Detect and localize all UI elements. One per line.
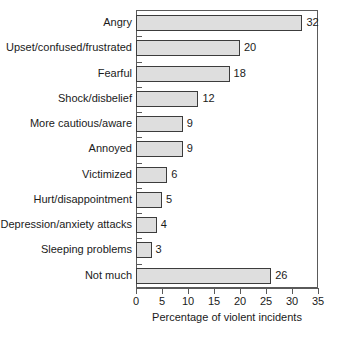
y-axis-tick — [137, 87, 142, 88]
bar — [136, 268, 271, 284]
x-axis-tick-label: 30 — [286, 295, 298, 307]
x-axis-tick — [292, 288, 293, 294]
y-axis-tick — [137, 112, 142, 113]
bar-value-label: 12 — [202, 86, 214, 110]
category-label: Angry — [0, 10, 132, 34]
x-axis-tick-label: 20 — [234, 295, 246, 307]
y-axis-tick — [137, 137, 142, 138]
x-axis-line — [136, 288, 318, 289]
bar — [136, 167, 167, 183]
bar-value-label: 9 — [187, 111, 193, 135]
bar-row: Angry32 — [0, 10, 339, 34]
x-axis-tick-label: 10 — [182, 295, 194, 307]
x-axis-tick-label: 15 — [208, 295, 220, 307]
bar — [136, 66, 230, 82]
category-label: Not much — [0, 263, 132, 287]
bar-value-label: 5 — [166, 187, 172, 211]
x-axis-tick — [188, 288, 189, 294]
x-axis-title: Percentage of violent incidents — [136, 311, 318, 323]
x-axis-tick — [214, 288, 215, 294]
bar-value-label: 4 — [161, 212, 167, 236]
bar-row: Victimized6 — [0, 162, 339, 186]
x-axis-tick — [136, 288, 137, 294]
y-axis-tick — [137, 264, 142, 265]
y-axis-tick — [137, 62, 142, 63]
category-label: Sleeping problems — [0, 237, 132, 261]
bar-row: More cautious/aware9 — [0, 111, 339, 135]
bar-value-label: 9 — [187, 136, 193, 160]
bar-value-label: 6 — [171, 162, 177, 186]
bar-value-label: 20 — [244, 35, 256, 59]
category-label: Hurt/disappointment — [0, 187, 132, 211]
bar — [136, 40, 240, 56]
bar-row: Sleeping problems3 — [0, 237, 339, 261]
y-axis-tick — [137, 213, 142, 214]
x-axis-tick-label: 35 — [312, 295, 324, 307]
bar — [136, 116, 183, 132]
bar-row: Hurt/disappointment5 — [0, 187, 339, 211]
bar — [136, 15, 302, 31]
bar-value-label: 26 — [275, 263, 287, 287]
category-label: Victimized — [0, 162, 132, 186]
bar — [136, 141, 183, 157]
bar-chart: Angry32Upset/confused/frustrated20Fearfu… — [0, 0, 339, 343]
bar-value-label: 32 — [306, 10, 318, 34]
bar-row: Fearful18 — [0, 61, 339, 85]
category-label: Depression/anxiety attacks — [0, 212, 132, 236]
bar — [136, 192, 162, 208]
bar-value-label: 3 — [156, 237, 162, 261]
x-axis-tick — [162, 288, 163, 294]
bar — [136, 91, 198, 107]
x-axis-tick-label: 5 — [159, 295, 165, 307]
category-label: Shock/disbelief — [0, 86, 132, 110]
y-axis-tick — [137, 238, 142, 239]
bar-row: Not much26 — [0, 263, 339, 287]
x-axis-tick — [266, 288, 267, 294]
bar-row: Annoyed9 — [0, 136, 339, 160]
bar-row: Shock/disbelief12 — [0, 86, 339, 110]
y-axis-tick — [137, 163, 142, 164]
category-label: Upset/confused/frustrated — [0, 35, 132, 59]
x-axis-tick — [318, 288, 319, 294]
category-label: More cautious/aware — [0, 111, 132, 135]
category-label: Fearful — [0, 61, 132, 85]
x-axis-tick-label: 0 — [133, 295, 139, 307]
bar-value-label: 18 — [234, 61, 246, 85]
bar-row: Depression/anxiety attacks4 — [0, 212, 339, 236]
x-axis-tick — [240, 288, 241, 294]
y-axis-tick — [137, 36, 142, 37]
y-axis-tick — [137, 188, 142, 189]
category-label: Annoyed — [0, 136, 132, 160]
x-axis-tick-label: 25 — [260, 295, 272, 307]
bar — [136, 217, 157, 233]
bar-row: Upset/confused/frustrated20 — [0, 35, 339, 59]
bar — [136, 242, 152, 258]
